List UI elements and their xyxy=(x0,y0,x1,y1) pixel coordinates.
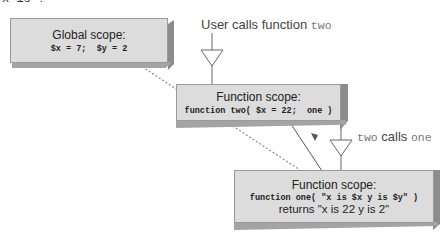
calls-text: calls xyxy=(378,129,411,144)
two-calls-one-triangle-icon xyxy=(330,140,352,156)
function-two-box: Function scope: function two( $x = 22; o… xyxy=(176,84,348,130)
return-arrowhead-icon xyxy=(311,133,318,141)
function-two-code: function two( $x = 22; one ) xyxy=(177,106,340,116)
function-one-title: Function scope: xyxy=(235,178,433,192)
global-scope-box: Global scope: $x = 7; $y = 2 xyxy=(10,18,174,70)
global-scope-title: Global scope: xyxy=(11,28,167,42)
user-calls-label: User calls function two xyxy=(201,17,332,32)
function-one-box: Function scope: function one( "x is $x y… xyxy=(234,170,440,232)
callee-name: one xyxy=(411,131,432,144)
user-call-triangle-icon xyxy=(201,50,223,66)
user-calls-prefix: User calls function xyxy=(201,17,311,32)
function-two-title: Function scope: xyxy=(177,90,340,104)
caller-name: two xyxy=(357,131,378,144)
function-one-code: function one( "x is $x y is $y" ) xyxy=(235,193,433,203)
function-one-returns: returns "x is 22 y is 2" xyxy=(235,203,433,215)
user-calls-func: two xyxy=(311,19,332,32)
global-scope-code: $x = 7; $y = 2 xyxy=(11,44,167,54)
two-calls-one-label: two calls one xyxy=(357,129,432,144)
